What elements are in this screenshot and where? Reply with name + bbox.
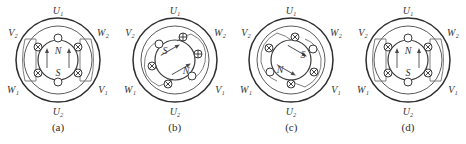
slot-lower-left xyxy=(384,69,392,77)
pole-south-label: S xyxy=(56,67,61,78)
motor-diagram-d: N S U₁ U₂ V₂ W₂ W₁ xyxy=(350,0,466,120)
slot-upper-left xyxy=(34,43,42,51)
slot-bottom xyxy=(404,78,412,86)
label-v1: V₁ xyxy=(215,84,225,95)
flux-arrowhead-left xyxy=(395,48,399,53)
label-w1: W₁ xyxy=(7,84,19,95)
slot-lower-right xyxy=(188,72,196,80)
panel-d: N S U₁ U₂ V₂ W₂ W₁ xyxy=(350,0,466,144)
slot-upper-right xyxy=(194,50,202,58)
panel-b: S N U₁ U₂ V₂ W₂ xyxy=(117,0,233,144)
slot-top xyxy=(404,34,412,42)
label-v2: V₂ xyxy=(242,27,252,38)
pole-north-label: N xyxy=(404,45,413,56)
label-u1: U₁ xyxy=(403,5,414,16)
slot-upper-left xyxy=(384,43,392,51)
slot-upper-right xyxy=(424,43,432,51)
slot-top xyxy=(291,33,299,41)
motor-diagram-b: S N U₁ U₂ V₂ W₂ xyxy=(117,0,233,120)
slot-bottom xyxy=(54,78,62,86)
label-u2: U₂ xyxy=(53,106,64,117)
stator-outer-ring xyxy=(249,18,333,102)
motor-diagram-c: S N U₁ U₂ V₂ W₂ W₁ xyxy=(233,0,349,120)
slot-lower-left xyxy=(34,69,42,77)
label-u1: U₁ xyxy=(169,5,180,16)
slot-upper-left xyxy=(155,40,163,48)
panel-caption-b: (b) xyxy=(117,121,233,133)
flux-arrowhead-left xyxy=(45,48,49,53)
panel-caption-c: (c) xyxy=(233,121,349,133)
flux-arrowhead-left xyxy=(174,43,180,49)
panel-a: N S U₁ U₂ V₂ W xyxy=(0,0,116,144)
slot-lower-left xyxy=(148,62,156,70)
stator-inner-ring xyxy=(141,26,209,94)
slot-upper-right xyxy=(74,43,82,51)
flux-arrowhead-right xyxy=(291,71,297,77)
label-v2: V₂ xyxy=(125,27,135,38)
label-w2: W₂ xyxy=(214,27,226,38)
pole-north-label: N xyxy=(276,64,285,75)
flux-arrowhead-right xyxy=(417,48,421,53)
pole-south-label: S xyxy=(405,67,410,78)
label-v2: V₂ xyxy=(358,27,368,38)
label-u1: U₁ xyxy=(286,5,297,16)
label-v2: V₂ xyxy=(8,27,18,38)
label-w2: W₂ xyxy=(447,27,459,38)
label-w2: W₂ xyxy=(97,27,109,38)
slot-lower-right xyxy=(310,68,318,76)
panel-c: S N U₁ U₂ V₂ W₂ W₁ xyxy=(233,0,349,144)
pole-south-label: S xyxy=(301,49,306,60)
label-w1: W₁ xyxy=(357,84,369,95)
label-w2: W₂ xyxy=(330,27,342,38)
motor-diagram-a: N S U₁ U₂ V₂ W xyxy=(0,0,116,120)
figure-row: N S U₁ U₂ V₂ W xyxy=(0,0,466,144)
slot-lower-right xyxy=(424,69,432,77)
panel-caption-d: (d) xyxy=(350,121,466,133)
slot-bottom xyxy=(164,80,172,88)
label-u2: U₂ xyxy=(286,106,297,117)
label-v1: V₁ xyxy=(332,84,342,95)
slot-upper-left xyxy=(265,44,273,52)
slot-bottom xyxy=(287,80,295,88)
label-v1: V₁ xyxy=(448,84,458,95)
label-w1: W₁ xyxy=(240,84,252,95)
label-u1: U₁ xyxy=(53,5,64,16)
pole-south-label: S xyxy=(162,45,167,56)
label-v1: V₁ xyxy=(98,84,108,95)
stator-outer-ring xyxy=(366,18,450,102)
label-u2: U₂ xyxy=(169,106,180,117)
stator-outer-ring xyxy=(133,18,217,102)
flux-arrowhead-right xyxy=(67,48,71,53)
coil-band-left-tail xyxy=(277,33,291,40)
pole-north-label: N xyxy=(54,45,63,56)
panel-caption-a: (a) xyxy=(0,121,116,133)
slot-lower-left xyxy=(266,68,274,76)
stator-outer-ring xyxy=(16,18,100,102)
slot-lower-right xyxy=(74,69,82,77)
label-u2: U₂ xyxy=(403,106,414,117)
slot-top xyxy=(179,33,187,41)
slot-top xyxy=(54,34,62,42)
slot-upper-right xyxy=(309,45,317,53)
label-w1: W₁ xyxy=(124,84,136,95)
